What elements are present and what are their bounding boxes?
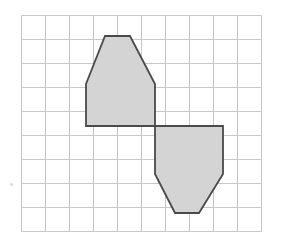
scan-speck — [10, 183, 13, 186]
grid-figure-svg — [0, 0, 283, 247]
figure-canvas — [0, 0, 283, 247]
